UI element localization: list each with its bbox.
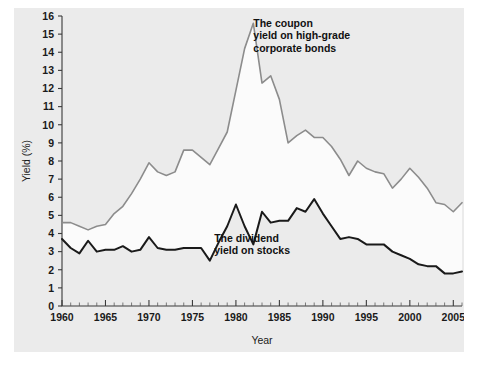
dividend-annotation-line: yield on stocks <box>214 244 290 256</box>
x-tick-label: 1980 <box>224 311 248 323</box>
y-tick-label: 5 <box>48 209 54 221</box>
x-tick-label: 1990 <box>311 311 335 323</box>
y-tick-label: 14 <box>42 46 54 58</box>
y-tick-label: 1 <box>48 282 54 294</box>
y-tick-label: 0 <box>48 300 54 312</box>
y-tick-label: 13 <box>42 64 54 76</box>
bond-annotation-line: yield on high-grade <box>253 29 350 41</box>
y-tick-label: 6 <box>48 191 54 203</box>
y-tick-label: 3 <box>48 245 54 257</box>
yield-line-chart: 0123456789101112131415161960196519701975… <box>14 8 464 352</box>
y-tick-label: 11 <box>43 100 54 112</box>
x-axis-title: Year <box>251 334 273 346</box>
figure-panel: 0123456789101112131415161960196519701975… <box>14 8 464 352</box>
y-tick-label: 2 <box>48 264 54 276</box>
x-tick-label: 2000 <box>398 311 422 323</box>
x-tick-label: 1985 <box>268 311 292 323</box>
x-tick-label: 1965 <box>94 311 118 323</box>
x-tick-label: 1970 <box>137 311 161 323</box>
y-tick-label: 16 <box>42 10 54 22</box>
y-tick-label: 8 <box>48 155 54 167</box>
y-tick-label: 15 <box>42 28 54 40</box>
dividend-annotation-line: The dividend <box>214 232 279 244</box>
y-tick-label: 10 <box>42 119 54 131</box>
y-tick-label: 7 <box>48 173 54 185</box>
x-tick-label: 1960 <box>50 311 74 323</box>
bond-annotation-line: corporate bonds <box>253 42 336 54</box>
y-tick-label: 4 <box>48 227 54 239</box>
x-tick-label: 1995 <box>355 311 379 323</box>
x-tick-label: 1975 <box>181 311 205 323</box>
y-axis-title: Yield (%) <box>20 140 32 182</box>
y-tick-label: 9 <box>48 137 54 149</box>
y-tick-label: 12 <box>42 82 54 94</box>
bond-annotation-line: The coupon <box>253 17 313 29</box>
x-tick-label: 2005 <box>442 311 464 323</box>
